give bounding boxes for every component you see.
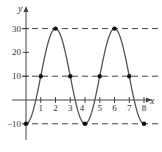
sinusoid-chart: 12345678−10102030 x y bbox=[0, 0, 162, 152]
x-tick-label: 6 bbox=[112, 103, 117, 113]
data-point bbox=[24, 122, 28, 126]
data-point bbox=[98, 74, 102, 78]
y-axis-label: y bbox=[17, 3, 23, 14]
x-tick-label: 8 bbox=[142, 103, 147, 113]
axes bbox=[12, 6, 152, 140]
y-tick-label: 30 bbox=[12, 24, 22, 34]
y-tick-label: 10 bbox=[12, 71, 22, 81]
x-tick-label: 5 bbox=[98, 103, 103, 113]
x-tick-label: 2 bbox=[53, 103, 58, 113]
x-tick-label: 1 bbox=[39, 103, 44, 113]
x-tick-label: 4 bbox=[80, 103, 85, 113]
y-tick-label: −10 bbox=[7, 119, 22, 129]
y-tick-label: 20 bbox=[12, 47, 22, 57]
data-point bbox=[83, 122, 87, 126]
x-axis-label: x bbox=[149, 95, 155, 106]
data-point bbox=[39, 74, 43, 78]
data-point bbox=[53, 26, 57, 30]
data-point bbox=[142, 122, 146, 126]
x-tick-label: 3 bbox=[68, 103, 73, 113]
data-point bbox=[112, 26, 116, 30]
y-axis-arrow-icon bbox=[24, 6, 29, 12]
data-point bbox=[127, 74, 131, 78]
data-point bbox=[68, 74, 72, 78]
x-tick-label: 7 bbox=[127, 103, 132, 113]
